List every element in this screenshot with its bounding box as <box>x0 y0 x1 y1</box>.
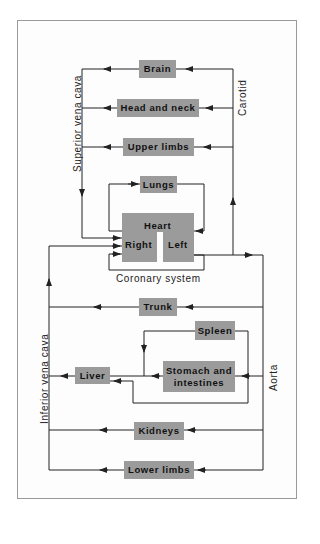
heart-box: Heart Right Left <box>122 213 194 262</box>
heart-right-label: Right <box>125 239 152 250</box>
head-and-neck-box: Head and neck <box>117 99 199 117</box>
superior-vena-cava-label: Superior vena cava <box>72 75 83 172</box>
lower-limbs-box: Lower limbs <box>124 461 194 479</box>
spleen-box: Spleen <box>195 321 235 340</box>
stomach-line1: Stomach and <box>166 365 232 377</box>
aorta-label: Aorta <box>268 364 279 391</box>
upper-limbs-box: Upper limbs <box>123 138 194 156</box>
trunk-box: Trunk <box>139 298 177 316</box>
kidneys-box: Kidneys <box>134 422 184 440</box>
carotid-label: Carotid <box>237 80 248 116</box>
inferior-vena-cava-label: Inferior vena cava <box>39 334 50 424</box>
lungs-box: Lungs <box>140 176 177 193</box>
heart-left-label: Left <box>168 239 188 250</box>
coronary-system-label: Coronary system <box>116 273 201 284</box>
heart-label: Heart <box>144 220 171 231</box>
stomach-intestines-box: Stomach and intestines <box>163 361 235 392</box>
liver-box: Liver <box>75 367 110 384</box>
brain-box: Brain <box>139 60 176 78</box>
stomach-line2: intestines <box>174 377 224 389</box>
